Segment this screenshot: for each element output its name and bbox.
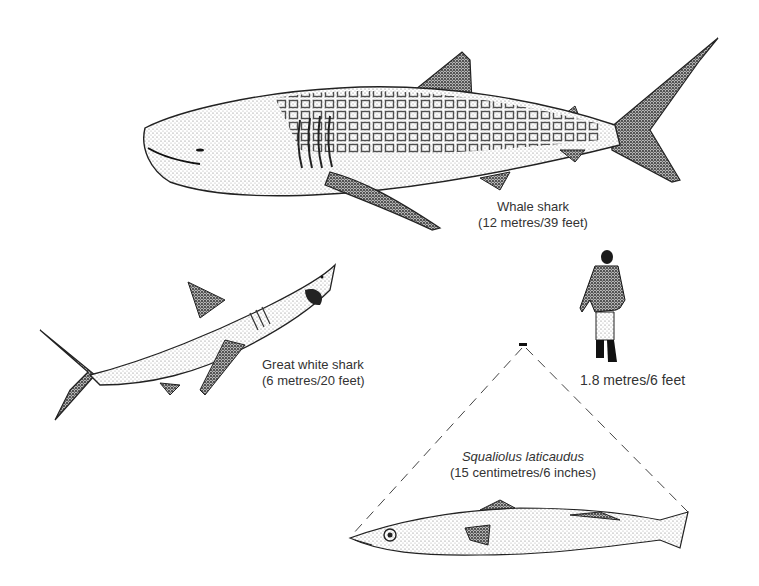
whale-shark-size: (12 metres/39 feet) xyxy=(468,215,598,231)
whale-shark-illustration xyxy=(144,38,718,230)
great-white-shark-name: Great white shark xyxy=(262,357,382,373)
great-white-shark-illustration xyxy=(40,265,335,420)
illustration-layer xyxy=(0,0,759,586)
human-figure xyxy=(580,250,625,362)
size-comparison-figure: Whale shark (12 metres/39 feet) Great wh… xyxy=(0,0,759,586)
human-label: 1.8 metres/6 feet xyxy=(580,372,720,388)
great-white-shark-label: Great white shark (6 metres/20 feet) xyxy=(262,357,382,389)
human-size: 1.8 metres/6 feet xyxy=(580,372,720,388)
squaliolus-name: Squaliolus laticaudus xyxy=(438,449,608,465)
squaliolus-illustration xyxy=(350,500,688,555)
great-white-shark-size: (6 metres/20 feet) xyxy=(262,373,382,389)
squaliolus-size: (15 centimetres/6 inches) xyxy=(438,465,608,481)
squaliolus-label: Squaliolus laticaudus (15 centimetres/6 … xyxy=(438,449,608,481)
whale-shark-label: Whale shark (12 metres/39 feet) xyxy=(468,199,598,231)
whale-shark-name: Whale shark xyxy=(468,199,598,215)
